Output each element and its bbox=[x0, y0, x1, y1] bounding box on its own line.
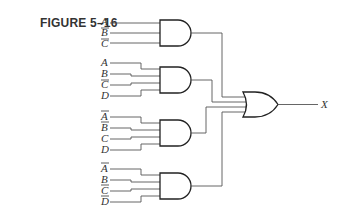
input-label: D bbox=[100, 143, 109, 155]
logic-circuit-diagram: A B C A B C D A B C D bbox=[0, 0, 337, 220]
or-gate: X bbox=[243, 92, 329, 117]
input-label: D bbox=[100, 195, 109, 207]
input-label: D bbox=[100, 89, 109, 101]
and-gate-2: A B C D bbox=[100, 56, 247, 102]
output-label: X bbox=[320, 98, 329, 110]
and-gate-3: A B C D bbox=[100, 107, 247, 155]
